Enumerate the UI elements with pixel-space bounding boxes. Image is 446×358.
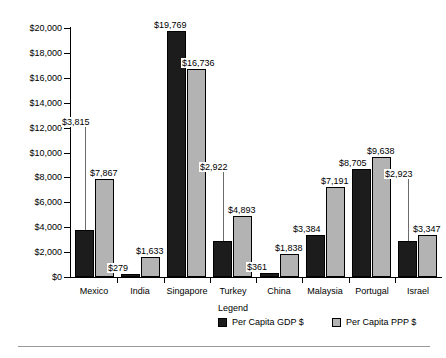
y-axis-tick (64, 277, 70, 278)
y-axis-tick (64, 202, 70, 203)
y-axis-line (70, 27, 71, 278)
value-label-leader-line (223, 172, 224, 241)
value-label: $2,923 (384, 169, 414, 179)
bar-chart: $0$2,000$4,000$6,000$8,000$10,000$12,000… (0, 0, 446, 358)
x-axis-tick (395, 278, 396, 283)
bar-israel-ppp (418, 235, 437, 277)
y-axis-tick-label: $4,000 (0, 223, 62, 232)
y-axis-tick-label: $10,000 (0, 149, 62, 158)
y-axis-tick (64, 227, 70, 228)
category-label-mexico: Mexico (71, 286, 117, 296)
value-label: $3,815 (61, 117, 91, 127)
value-label: $2,922 (199, 162, 229, 172)
x-axis-tick (117, 278, 118, 283)
legend-label: Per Capita GDP $ (232, 317, 304, 327)
value-label: $9,638 (366, 146, 396, 156)
category-label-singapore: Singapore (164, 286, 210, 296)
footer-divider (18, 346, 430, 347)
value-label: $279 (107, 263, 129, 273)
y-axis-tick (64, 53, 70, 54)
legend-items: Per Capita GDP $Per Capita PPP $ (218, 317, 416, 327)
y-axis-tick-label: $6,000 (0, 198, 62, 207)
category-label-malaysia: Malaysia (302, 286, 348, 296)
y-axis-tick-label: $12,000 (0, 124, 62, 133)
legend-title: Legend (218, 303, 248, 313)
y-axis-tick-label: $0 (0, 273, 62, 282)
bar-turkey-gdp (213, 241, 232, 277)
x-axis-tick (164, 278, 165, 283)
value-label-leader-line (408, 179, 409, 241)
category-label-portugal: Portugal (349, 286, 395, 296)
legend-swatch-icon (218, 318, 227, 327)
y-axis-tick (64, 103, 70, 104)
bar-mexico-gdp (75, 230, 94, 277)
x-axis-tick (256, 278, 257, 283)
y-axis-tick (64, 78, 70, 79)
bar-malaysia-ppp (326, 187, 345, 277)
value-label: $3,347 (412, 224, 442, 234)
y-axis-tick (64, 28, 70, 29)
value-label: $16,736 (181, 58, 216, 68)
value-label: $8,705 (338, 158, 368, 168)
y-axis-tick-label: $14,000 (0, 99, 62, 108)
value-label: $361 (246, 262, 268, 272)
legend-label: Per Capita PPP $ (346, 317, 416, 327)
value-label: $3,384 (292, 224, 322, 234)
y-axis-tick-label: $8,000 (0, 173, 62, 182)
bar-singapore-ppp (187, 69, 206, 277)
y-axis-tick-label: $20,000 (0, 24, 62, 33)
value-label: $4,893 (227, 205, 257, 215)
legend-entry-ppp[interactable]: Per Capita PPP $ (332, 317, 416, 327)
bar-malaysia-gdp (306, 235, 325, 277)
y-axis-tick-label: $16,000 (0, 74, 62, 83)
y-axis-tick (64, 252, 70, 253)
value-label-leader-line (85, 127, 86, 230)
value-label: $7,191 (320, 176, 350, 186)
x-axis-tick (302, 278, 303, 283)
value-label: $7,867 (89, 168, 119, 178)
category-label-china: China (256, 286, 302, 296)
bar-china-gdp (260, 273, 279, 277)
y-axis-tick-label: $2,000 (0, 248, 62, 257)
bar-china-ppp (280, 254, 299, 277)
category-label-india: India (117, 286, 163, 296)
y-axis-tick-label: $18,000 (0, 49, 62, 58)
y-axis-tick (64, 177, 70, 178)
bar-india-ppp (141, 257, 160, 277)
x-axis-tick (210, 278, 211, 283)
legend-entry-gdp[interactable]: Per Capita GDP $ (218, 317, 304, 327)
category-label-israel: Israel (395, 286, 441, 296)
value-label: $19,769 (153, 20, 188, 30)
bar-portugal-gdp (352, 169, 371, 277)
x-axis-tick (349, 278, 350, 283)
bar-india-gdp (121, 274, 140, 277)
category-label-turkey: Turkey (210, 286, 256, 296)
value-label: $1,633 (135, 246, 165, 256)
legend-swatch-icon (332, 318, 341, 327)
bar-israel-gdp (398, 241, 417, 277)
y-axis-tick (64, 153, 70, 154)
value-label: $1,838 (274, 243, 304, 253)
y-axis-tick (64, 128, 70, 129)
